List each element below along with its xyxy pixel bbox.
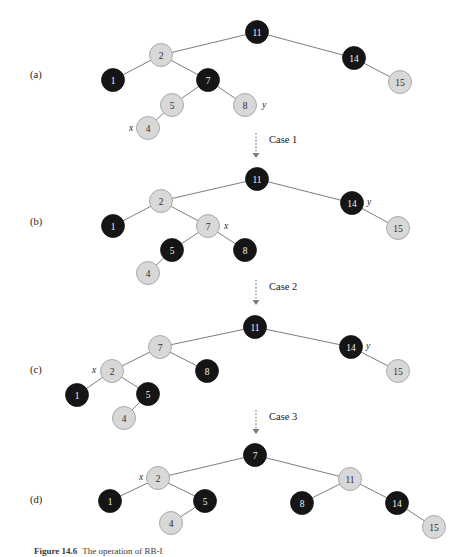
case-label: Case 2 (269, 281, 297, 292)
case-label: Case 1 (269, 134, 297, 145)
node-key-label: 2 (156, 474, 161, 484)
node-key-label: 5 (203, 497, 208, 507)
node-key-label: 1 (108, 497, 113, 507)
node-key-label: 1 (111, 222, 116, 232)
tree-node[interactable]: 7 (197, 215, 220, 238)
tree-node[interactable]: 2 (150, 44, 173, 67)
tree-node[interactable]: 1 (66, 384, 89, 407)
panel-letter-label: (b) (30, 216, 43, 228)
node-key-label: 7 (206, 76, 211, 86)
pointer-label-y: y (365, 341, 371, 351)
node-key-label: 8 (205, 367, 210, 377)
tree-node[interactable]: 8 (234, 94, 257, 117)
node-key-label: 4 (169, 519, 174, 529)
node-key-label: 11 (252, 175, 261, 185)
tree-node[interactable]: 11 (339, 468, 362, 491)
tree-node[interactable]: 15 (389, 71, 412, 94)
pointer-label-x: x (128, 123, 134, 133)
pointer-label-x: x (223, 221, 229, 231)
node-key-label: 7 (253, 451, 258, 461)
tree-node[interactable]: 15 (387, 360, 410, 383)
pointer-label-y: y (261, 100, 267, 110)
tree-node[interactable]: 5 (161, 239, 184, 262)
tree-node[interactable]: 4 (113, 407, 136, 430)
tree-node[interactable]: 11 (246, 21, 269, 44)
node-key-label: 11 (345, 475, 354, 485)
tree-node[interactable]: 5 (194, 490, 217, 513)
node-key-label: 8 (300, 499, 305, 509)
node-key-label: 2 (159, 197, 164, 207)
tree-node[interactable]: 5 (161, 94, 184, 117)
node-key-label: 15 (393, 224, 403, 234)
red-black-tree-figure: (a)112141715584xy(b)112141715584xy(c)117… (0, 0, 468, 557)
tree-node[interactable]: 2 (147, 467, 170, 490)
node-key-label: 2 (110, 367, 115, 377)
pointer-label-x: x (91, 365, 97, 375)
tree-node[interactable]: 5 (137, 383, 160, 406)
figure-container: (a)112141715584xy(b)112141715584xy(c)117… (0, 0, 468, 557)
tree-node[interactable]: 7 (244, 444, 267, 467)
panel-letter-label: (a) (30, 69, 42, 81)
tree-node[interactable]: 1 (102, 69, 125, 92)
node-key-label: 2 (159, 51, 164, 61)
tree-node[interactable]: 15 (387, 217, 410, 240)
node-key-label: 15 (393, 367, 403, 377)
tree-node[interactable]: 4 (137, 117, 160, 140)
pointer-label-x: x (138, 472, 144, 482)
tree-node[interactable]: 14 (340, 336, 363, 359)
panel-letter-label: (c) (30, 364, 42, 376)
node-key-label: 4 (146, 269, 151, 279)
node-key-label: 4 (146, 124, 151, 134)
node-key-label: 15 (395, 78, 405, 88)
node-key-label: 7 (206, 222, 211, 232)
node-key-label: 14 (346, 343, 356, 353)
node-key-label: 1 (111, 76, 116, 86)
tree-node[interactable]: 11 (244, 316, 267, 339)
node-key-label: 4 (122, 414, 127, 424)
tree-node[interactable]: 8 (291, 492, 314, 515)
figure-caption: Figure 14.6The operation of RB-I (34, 546, 163, 556)
node-key-label: 5 (170, 246, 175, 256)
tree-node[interactable]: 8 (234, 239, 257, 262)
node-key-label: 7 (158, 343, 163, 353)
tree-node[interactable]: 4 (160, 512, 183, 535)
tree-node[interactable]: 15 (423, 516, 446, 539)
tree-node[interactable]: 11 (246, 168, 269, 191)
node-key-label: 1 (75, 391, 80, 401)
node-key-label: 14 (347, 199, 357, 209)
node-key-label: 5 (170, 101, 175, 111)
tree-node[interactable]: 7 (197, 69, 220, 92)
tree-node[interactable]: 2 (101, 360, 124, 383)
panel-letter-label: (d) (30, 494, 43, 506)
node-key-label: 5 (146, 390, 151, 400)
node-key-label: 8 (243, 246, 248, 256)
node-key-label: 14 (349, 54, 359, 64)
node-key-label: 14 (392, 499, 402, 509)
node-key-label: 11 (252, 28, 261, 38)
caption-line: Figure 14.6The operation of RB-I (34, 546, 163, 556)
case-label: Case 3 (269, 411, 297, 422)
tree-node[interactable]: 1 (99, 490, 122, 513)
tree-node[interactable]: 14 (341, 192, 364, 215)
tree-node[interactable]: 2 (150, 190, 173, 213)
tree-node[interactable]: 14 (386, 492, 409, 515)
caption-figure-number: Figure 14.6 (34, 546, 78, 556)
tree-node[interactable]: 4 (137, 262, 160, 285)
node-key-label: 15 (429, 523, 439, 533)
tree-node[interactable]: 14 (343, 47, 366, 70)
pointer-label-y: y (366, 197, 372, 207)
caption-body: The operation of RB-I (82, 546, 162, 556)
tree-node[interactable]: 8 (196, 360, 219, 383)
tree-node[interactable]: 7 (149, 336, 172, 359)
tree-node[interactable]: 1 (102, 215, 125, 238)
node-key-label: 11 (250, 323, 259, 333)
node-key-label: 8 (243, 101, 248, 111)
